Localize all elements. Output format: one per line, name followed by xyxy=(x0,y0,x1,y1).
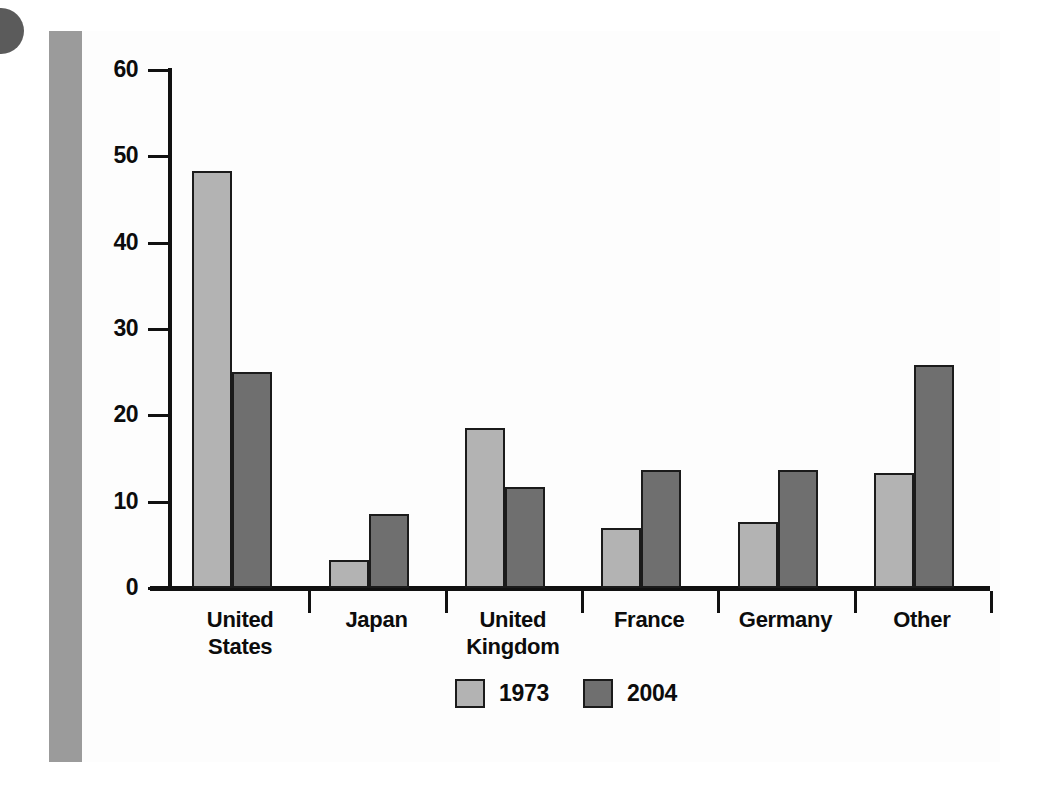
y-axis-tick xyxy=(148,69,170,72)
y-axis-tick-label: 0 xyxy=(78,574,138,600)
x-axis-category-label-line: States xyxy=(172,633,308,660)
legend-label: 2004 xyxy=(627,680,677,707)
y-axis-tick xyxy=(148,587,170,590)
legend-entry: 1973 xyxy=(455,679,549,708)
x-axis-category-label: Other xyxy=(854,606,990,633)
bar-1973-united-states xyxy=(192,171,232,588)
bar-1973-france xyxy=(601,528,641,588)
y-axis-tick-label-text: 20 xyxy=(78,401,138,428)
x-axis-category-label-line: Other xyxy=(854,606,990,633)
bar-2004-france xyxy=(641,470,681,588)
y-axis-tick-label-text: 40 xyxy=(78,229,138,256)
y-axis-tick xyxy=(148,242,170,245)
x-axis-category-label-line: Japan xyxy=(308,606,444,633)
chart-legend: 19732004 xyxy=(455,679,677,708)
y-axis-tick-label: 30 xyxy=(78,315,138,341)
bar-1973-japan xyxy=(329,560,369,588)
bar-2004-other xyxy=(914,365,954,588)
y-axis-tick-label: 10 xyxy=(78,488,138,514)
bar-2004-united-kingdom xyxy=(505,487,545,588)
y-axis-tick-label-text: 10 xyxy=(78,488,138,515)
y-axis-tick xyxy=(148,155,170,158)
y-axis-tick-label-text: 60 xyxy=(78,56,138,83)
bar-chart: 0102030405060 UnitedStatesJapanUnitedKin… xyxy=(0,0,1043,794)
light-gray-swatch xyxy=(455,679,485,708)
y-axis-tick xyxy=(148,501,170,504)
x-axis-line xyxy=(150,586,990,591)
y-axis-tick xyxy=(148,328,170,331)
x-axis-category-label: UnitedStates xyxy=(172,606,308,660)
bar-2004-germany xyxy=(778,470,818,588)
bar-2004-japan xyxy=(369,514,409,588)
y-axis-tick-label: 20 xyxy=(78,401,138,427)
dark-gray-swatch xyxy=(583,679,613,708)
x-axis-category-label: France xyxy=(581,606,717,633)
x-axis-tick xyxy=(990,591,993,613)
bar-1973-united-kingdom xyxy=(465,428,505,588)
x-axis-category-label-line: United xyxy=(445,606,581,633)
bar-1973-other xyxy=(874,473,914,588)
x-axis-category-label-line: Germany xyxy=(717,606,853,633)
y-axis-tick-label: 40 xyxy=(78,229,138,255)
y-axis-tick-label: 50 xyxy=(78,142,138,168)
y-axis-tick-label: 60 xyxy=(78,56,138,82)
x-axis-category-label: Germany xyxy=(717,606,853,633)
x-axis-category-label-line: France xyxy=(581,606,717,633)
y-axis-tick-label-text: 50 xyxy=(78,142,138,169)
bar-1973-germany xyxy=(738,522,778,588)
x-axis-category-label-line: United xyxy=(172,606,308,633)
x-axis-category-label: Japan xyxy=(308,606,444,633)
legend-entry: 2004 xyxy=(583,679,677,708)
x-axis-category-label-line: Kingdom xyxy=(445,633,581,660)
x-axis-category-label: UnitedKingdom xyxy=(445,606,581,660)
legend-label: 1973 xyxy=(499,680,549,707)
y-axis-tick-label-text: 30 xyxy=(78,315,138,342)
y-axis-tick xyxy=(148,414,170,417)
y-axis-tick-label-text: 0 xyxy=(78,574,138,601)
bar-2004-united-states xyxy=(232,372,272,588)
